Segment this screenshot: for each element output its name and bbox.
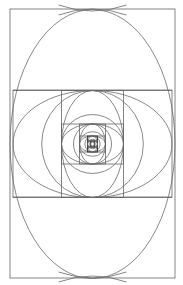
outer-ellipse <box>10 10 175 279</box>
nested-lens-1 <box>42 91 144 198</box>
nested-ellipse-6 <box>88 136 98 152</box>
nested-ellipse-2 <box>62 91 124 198</box>
nested-rectangle-1 <box>13 91 172 198</box>
top-cross-arc-b <box>59 5 127 11</box>
nested-ellipse-4 <box>80 124 106 164</box>
bottom-cross-arc-b <box>59 276 127 282</box>
nested-lens-4 <box>80 132 106 157</box>
nested-ellipse-1 <box>13 91 172 198</box>
nested-lens-2 <box>62 115 124 174</box>
nested-lens-8 <box>91 142 95 146</box>
nested-ellipse-5 <box>80 136 106 152</box>
nested-shapes-group <box>10 5 175 282</box>
nested-ellipse-3 <box>62 124 124 164</box>
outer-rectangle <box>10 9 175 278</box>
golden-ratio-diagram <box>0 0 183 285</box>
